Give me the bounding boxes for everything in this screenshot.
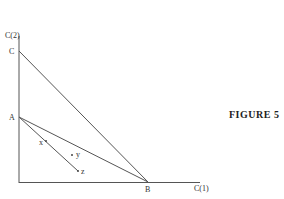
point-z <box>77 170 79 172</box>
y-axis-label: C(2) <box>5 31 20 40</box>
figure-caption: FIGURE 5 <box>229 109 279 120</box>
x-axis-label: C(1) <box>194 184 209 193</box>
point-x-label: x <box>39 138 43 147</box>
point-b-label: B <box>145 185 150 194</box>
line-c-b <box>19 51 148 182</box>
point-x <box>45 140 47 142</box>
point-a-label: A <box>9 113 15 122</box>
point-y <box>71 154 73 156</box>
line-a-z <box>19 117 78 171</box>
figure-diagram: C(2) C(1) C A B x y z FIGURE 5 <box>0 0 284 199</box>
point-z-label: z <box>81 167 85 176</box>
point-c-label: C <box>9 47 14 56</box>
point-y-label: y <box>76 150 80 159</box>
